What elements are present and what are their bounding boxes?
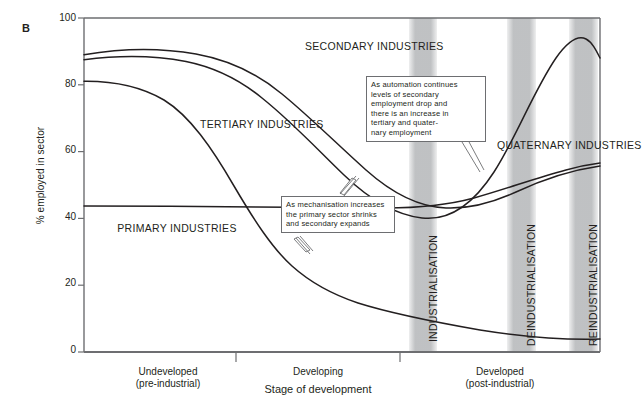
leader-line-automation	[462, 140, 484, 172]
curve-label-quaternary-line1: QUATERNARY	[497, 139, 572, 151]
curve-label-primary-line1: PRIMARY	[117, 222, 167, 234]
curve-label-quaternary: QUATERNARY INDUSTRIES	[497, 139, 607, 151]
annotation-mechanisation-line1: As mechanisation increases	[286, 200, 390, 210]
x-tick-undeveloped-line1: Undeveloped	[100, 366, 236, 378]
annotation-automation-line3: employment drop and	[371, 99, 481, 109]
curve-label-secondary: SECONDARY INDUSTRIES	[305, 40, 425, 52]
band-label-deindustrialisation: DEINDUSTRIALISATION	[525, 224, 537, 346]
x-axis-ticks	[236, 352, 400, 362]
x-tick-label-undeveloped: Undeveloped (pre-industrial)	[100, 366, 236, 390]
x-tick-label-developing: Developing	[250, 366, 386, 378]
annotation-automation-line5: tertiary and quater-	[371, 118, 481, 128]
annotation-automation-line6: nary employment	[371, 128, 481, 138]
annotation-automation-line2: levels of secondary	[371, 90, 481, 100]
annotation-automation-line1: As automation continues	[371, 80, 481, 90]
x-tick-undeveloped-line2: (pre-industrial)	[100, 378, 236, 390]
curve-label-secondary-line2: INDUSTRIES	[377, 40, 444, 52]
curve-label-tertiary-line2: INDUSTRIES	[257, 118, 324, 130]
annotation-automation: As automation continues levels of second…	[366, 76, 486, 142]
annotation-mechanisation-line2: the primary sector shrinks	[286, 210, 390, 220]
band-label-reindustrialisation: REINDUSTRIALISATION	[587, 224, 599, 346]
annotation-mechanisation-line3: and secondary expands	[286, 219, 390, 229]
curve-label-primary-line2: INDUSTRIES	[170, 222, 237, 234]
x-tick-developed-line1: Developed	[432, 366, 568, 378]
curve-label-primary: PRIMARY INDUSTRIES	[112, 222, 242, 234]
x-tick-label-developed: Developed (post-industrial)	[432, 366, 568, 390]
curve-label-tertiary-line1: TERTIARY	[200, 118, 254, 130]
y-axis-ticks	[78, 18, 84, 352]
x-tick-developing-line1: Developing	[250, 366, 386, 378]
curve-label-quaternary-line2: INDUSTRIES	[575, 139, 642, 151]
band-label-industrialisation: INDUSTRIALISATION	[427, 235, 439, 342]
x-axis-title: Stage of development	[250, 383, 386, 395]
curve-label-tertiary: TERTIARY INDUSTRIES	[200, 118, 310, 130]
x-tick-developed-line2: (post-industrial)	[432, 378, 568, 390]
annotation-automation-line4: there is an increase in	[371, 109, 481, 119]
annotation-mechanisation: As mechanisation increases the primary s…	[281, 196, 395, 233]
curve-label-secondary-line1: SECONDARY	[305, 40, 374, 52]
